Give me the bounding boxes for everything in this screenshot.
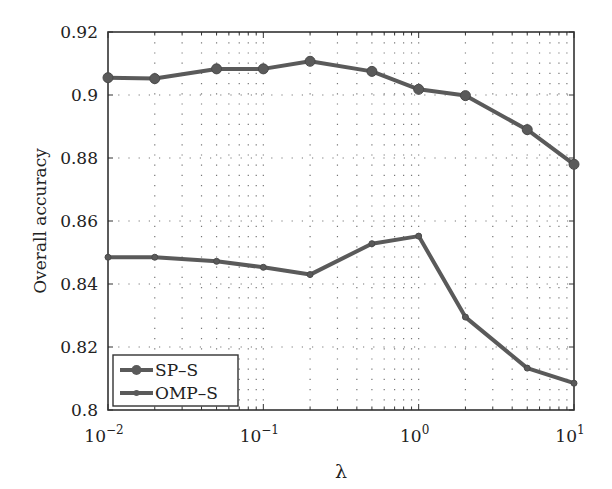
x-tick-label: 10−1	[240, 423, 279, 446]
data-point-marker	[258, 64, 268, 74]
data-point-marker	[569, 159, 579, 169]
data-point-marker	[305, 56, 315, 66]
series-layer	[103, 56, 579, 386]
y-axis-label: Overall accuracy	[30, 148, 50, 294]
line-chart: 0.80.820.840.860.880.90.92 10−210−110010…	[0, 0, 612, 489]
x-axis-label: λ	[335, 460, 347, 482]
x-tick-label: 100	[400, 423, 429, 446]
plot-frame	[108, 32, 574, 410]
data-point-marker	[522, 125, 532, 135]
y-tick-label: 0.88	[60, 148, 98, 168]
data-point-marker	[150, 74, 160, 84]
y-tick-label: 0.86	[60, 211, 98, 231]
data-point-marker	[571, 380, 577, 386]
data-point-marker	[524, 365, 530, 371]
plot-border	[108, 32, 574, 410]
data-point-marker	[460, 91, 470, 101]
data-point-marker	[214, 258, 220, 264]
data-point-marker	[307, 272, 313, 278]
y-tick-label: 0.9	[71, 85, 98, 105]
x-tick-label: 10−2	[84, 423, 123, 446]
y-tick-label: 0.84	[60, 274, 98, 294]
y-tick-label: 0.82	[60, 337, 98, 357]
data-point-marker	[462, 314, 468, 320]
data-point-marker	[414, 84, 424, 94]
x-tick-label: 101	[555, 423, 584, 446]
data-point-marker	[152, 254, 158, 260]
data-point-marker	[103, 73, 113, 83]
legend-marker-swatch	[132, 365, 142, 375]
legend-label: OMP–S	[155, 383, 218, 403]
data-point-marker	[260, 264, 266, 270]
data-point-marker	[105, 254, 111, 260]
series-sp-s	[103, 56, 579, 169]
grid-lines	[108, 32, 574, 410]
y-tick-label: 0.8	[71, 400, 98, 420]
y-tick-label: 0.92	[60, 22, 98, 42]
series-line	[108, 61, 574, 164]
legend-label: SP–S	[155, 360, 198, 380]
data-point-marker	[416, 233, 422, 239]
legend: SP–SOMP–S	[113, 355, 238, 406]
legend-marker-swatch	[134, 390, 140, 396]
data-point-marker	[367, 66, 377, 76]
data-point-marker	[212, 64, 222, 74]
data-point-marker	[369, 241, 375, 247]
